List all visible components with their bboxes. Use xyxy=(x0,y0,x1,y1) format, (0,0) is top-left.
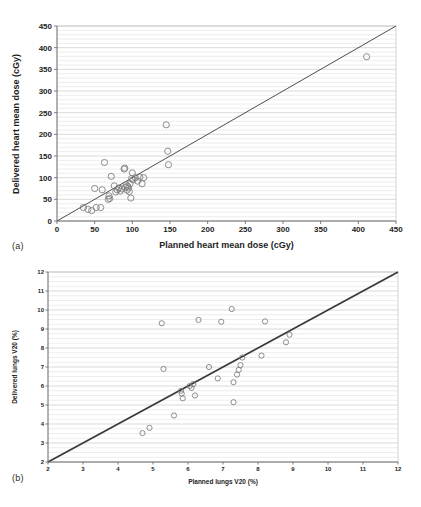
x-tick-label: 350 xyxy=(314,225,328,234)
panel-b-svg: 2345678910111223456789101112Planned lung… xyxy=(0,258,421,507)
y-axis-title: Delivered heart mean dose (cGy) xyxy=(11,54,21,194)
y-tick-label: 7 xyxy=(41,364,45,370)
data-point xyxy=(165,148,171,154)
data-point xyxy=(89,208,95,214)
x-tick-label: 11 xyxy=(360,466,367,472)
x-tick-label: 200 xyxy=(201,225,215,234)
x-tick-label: 0 xyxy=(55,225,60,234)
panel-a-svg: 0501001502002503003504004500501001502002… xyxy=(0,0,421,258)
identity-reference-line xyxy=(57,26,396,221)
data-point xyxy=(219,319,224,324)
x-tick-label: 50 xyxy=(90,225,99,234)
panel-a-scatter-heart-dose: 0501001502002503003504004500501001502002… xyxy=(0,0,421,258)
y-tick-label: 12 xyxy=(37,269,44,275)
data-point xyxy=(98,204,104,210)
data-points-group xyxy=(80,54,369,214)
data-point xyxy=(128,195,134,201)
y-tick-label: 9 xyxy=(41,326,45,332)
x-tick-label: 6 xyxy=(186,466,190,472)
x-tick-label: 3 xyxy=(81,466,85,472)
x-tick-label: 9 xyxy=(291,466,295,472)
data-point xyxy=(287,332,292,337)
y-tick-label: 300 xyxy=(39,87,53,96)
data-point xyxy=(99,187,105,193)
y-tick-label: 5 xyxy=(41,402,45,408)
y-tick-label: 200 xyxy=(39,130,53,139)
data-point xyxy=(364,54,370,60)
y-tick-label: 4 xyxy=(41,421,45,427)
figure-container: 0501001502002503003504004500501001502002… xyxy=(0,0,421,507)
data-point xyxy=(229,306,234,311)
x-tick-label: 300 xyxy=(276,225,290,234)
data-point xyxy=(108,173,114,179)
x-axis-ticks: 23456789101112 xyxy=(46,462,402,472)
x-axis-title: Planned lungs V20 (%) xyxy=(188,478,258,486)
x-tick-label: 450 xyxy=(389,225,403,234)
y-tick-label: 8 xyxy=(41,345,45,351)
x-tick-label: 10 xyxy=(325,466,332,472)
data-point xyxy=(283,340,288,345)
x-tick-label: 5 xyxy=(151,466,155,472)
x-tick-label: 400 xyxy=(352,225,366,234)
y-tick-label: 400 xyxy=(39,44,53,53)
y-tick-label: 450 xyxy=(39,22,53,31)
data-point xyxy=(196,317,201,322)
x-axis-title: Planned heart mean dose (cGy) xyxy=(159,240,294,250)
data-point xyxy=(159,321,164,326)
data-point xyxy=(147,425,152,430)
data-point xyxy=(171,413,176,418)
panel-b-label: (b) xyxy=(12,473,24,483)
y-tick-label: 350 xyxy=(39,65,53,74)
data-point xyxy=(231,380,236,385)
y-axis-title: Delivered lungs V20 (%) xyxy=(11,330,19,404)
y-tick-label: 0 xyxy=(48,217,53,226)
x-axis-ticks: 050100150200250300350400450 xyxy=(55,221,403,234)
x-tick-label: 250 xyxy=(239,225,253,234)
x-tick-label: 100 xyxy=(126,225,140,234)
x-tick-label: 150 xyxy=(163,225,177,234)
data-point xyxy=(163,122,169,128)
y-tick-label: 3 xyxy=(41,440,45,446)
y-axis-ticks: 23456789101112 xyxy=(37,269,48,465)
x-tick-label: 4 xyxy=(116,466,120,472)
x-tick-label: 12 xyxy=(395,466,402,472)
x-tick-label: 2 xyxy=(46,466,50,472)
y-tick-label: 50 xyxy=(43,195,52,204)
y-tick-label: 6 xyxy=(41,383,45,389)
y-tick-label: 150 xyxy=(39,152,53,161)
data-point xyxy=(140,431,145,436)
y-tick-label: 10 xyxy=(37,307,44,313)
x-tick-label: 8 xyxy=(256,466,260,472)
y-tick-label: 11 xyxy=(38,288,45,294)
panel-a-label: (a) xyxy=(12,241,24,251)
x-tick-label: 7 xyxy=(221,466,225,472)
y-tick-label: 100 xyxy=(39,174,53,183)
y-axis-ticks: 050100150200250300350400450 xyxy=(39,22,57,226)
y-tick-label: 250 xyxy=(39,109,53,118)
y-tick-label: 2 xyxy=(41,459,45,465)
panel-b-scatter-lungs-v20: 2345678910111223456789101112Planned lung… xyxy=(0,258,421,507)
